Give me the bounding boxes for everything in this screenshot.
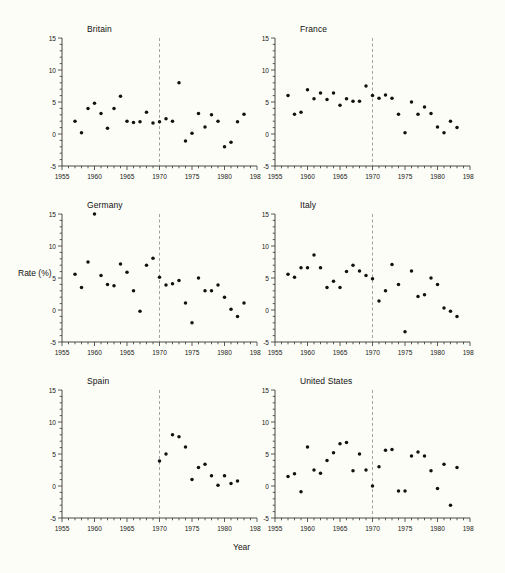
y-tick-label: 10 [49, 243, 57, 250]
data-point [203, 289, 207, 293]
x-tick-label: 1955 [55, 349, 70, 356]
x-tick-label: 1980 [217, 349, 232, 356]
data-point [338, 286, 342, 290]
data-point [99, 112, 103, 116]
y-tick-label: 0 [52, 483, 56, 490]
data-point [229, 308, 233, 312]
y-tick-label: 5 [265, 451, 269, 458]
x-tick-label: 1985 [463, 525, 474, 532]
data-point [429, 276, 433, 280]
data-point [125, 270, 129, 274]
data-point [364, 468, 368, 472]
x-tick-label: 1975 [398, 173, 413, 180]
x-tick-label: 1955 [268, 349, 283, 356]
data-point [190, 478, 194, 482]
data-point [299, 110, 303, 114]
data-point [229, 141, 233, 145]
data-point [364, 84, 368, 88]
y-tick-label: 0 [52, 131, 56, 138]
data-point [197, 112, 201, 116]
data-point [80, 286, 84, 290]
data-point [86, 107, 90, 111]
data-point [210, 474, 214, 478]
data-point [390, 96, 394, 100]
x-tick-label: 1980 [430, 173, 445, 180]
data-point [286, 475, 290, 479]
data-point [190, 321, 194, 325]
data-point [319, 471, 323, 475]
x-tick-label: 1965 [120, 173, 135, 180]
data-point [93, 102, 97, 106]
data-point [449, 119, 453, 123]
data-point [203, 125, 207, 128]
data-point [325, 286, 329, 290]
data-point [236, 120, 240, 124]
data-point [429, 112, 433, 116]
y-tick-label: 10 [49, 67, 57, 74]
data-point [210, 289, 214, 293]
data-point [106, 126, 110, 129]
x-tick-label: 1980 [430, 525, 445, 532]
x-tick-label: 1965 [120, 525, 135, 532]
y-tick-label: 0 [265, 131, 269, 138]
x-tick-label: 1970 [152, 349, 167, 356]
data-point [190, 132, 194, 136]
x-tick-label: 1960 [87, 173, 102, 180]
x-tick-label: 1975 [185, 349, 200, 356]
data-point [299, 490, 303, 494]
data-point [236, 479, 240, 483]
data-point [158, 459, 162, 463]
data-point [312, 253, 316, 257]
x-tick-label: 1955 [55, 525, 70, 532]
y-tick-label: 10 [262, 243, 270, 250]
data-point [371, 94, 375, 98]
x-tick-label: 1970 [152, 525, 167, 532]
y-tick-label: 15 [49, 387, 57, 394]
data-point [436, 125, 440, 128]
data-point [442, 131, 446, 135]
x-tick-label: 1970 [365, 173, 380, 180]
data-point [325, 459, 329, 463]
x-tick-label: 1955 [268, 173, 283, 180]
data-point [138, 310, 142, 314]
data-point [345, 97, 349, 101]
data-point [177, 279, 181, 283]
data-point [223, 474, 227, 478]
data-point [106, 283, 110, 287]
data-point [132, 121, 136, 125]
data-point [236, 315, 240, 319]
data-point [164, 117, 168, 121]
data-point [429, 469, 433, 473]
data-point [306, 445, 310, 449]
data-point [197, 466, 201, 470]
x-tick-label: 1980 [430, 349, 445, 356]
figure-x-axis-label: Year [233, 542, 250, 552]
data-point [364, 274, 368, 278]
data-point [99, 274, 103, 278]
y-tick-label: 0 [52, 307, 56, 314]
data-point [436, 283, 440, 287]
data-point [455, 466, 459, 470]
x-tick-label: 1975 [185, 525, 200, 532]
data-point [171, 282, 175, 286]
data-point [397, 489, 401, 493]
data-point [93, 212, 97, 216]
data-point [436, 487, 440, 491]
data-point [223, 295, 227, 299]
data-point [210, 113, 214, 117]
data-point [145, 110, 149, 114]
scatter-plot-germany: -50510151955196019651970197519801985 [32, 208, 261, 362]
data-point [112, 107, 116, 111]
x-tick-label: 1955 [268, 525, 283, 532]
y-tick-label: 10 [262, 67, 270, 74]
data-point [177, 435, 181, 439]
data-point [125, 119, 129, 123]
y-tick-label: -5 [263, 339, 269, 346]
scatter-plot-italy: -50510151955196019651970197519801985 [245, 208, 474, 362]
data-point [338, 442, 342, 446]
y-tick-label: 15 [262, 35, 270, 42]
data-point [171, 119, 175, 123]
data-point [184, 301, 188, 305]
data-point [358, 269, 362, 273]
data-point [416, 112, 420, 116]
